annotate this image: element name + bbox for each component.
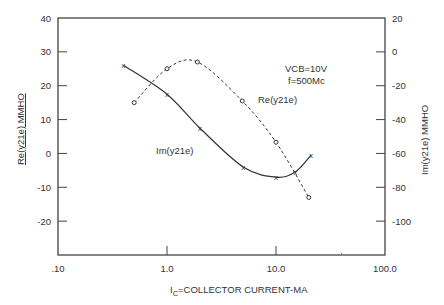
- x-marker: x: [165, 90, 169, 99]
- x-marker: x: [309, 151, 313, 160]
- left-y-tick-label: 0: [46, 148, 51, 159]
- right-y-tick-label: -20: [392, 80, 406, 91]
- condition-vcb: VCB=10V: [285, 63, 328, 74]
- chart: .101.010.0100.0 403020100-10-20 200-20-4…: [0, 0, 444, 305]
- right-y-tick-label: -40: [392, 114, 406, 125]
- circle-marker: [195, 60, 199, 64]
- x-marker: x: [198, 124, 202, 133]
- x-marker: x: [241, 163, 245, 172]
- left-y-tick-label: 30: [40, 46, 51, 57]
- left-y-tick-label: -10: [37, 182, 51, 193]
- data-series: xxxxxxx: [122, 60, 313, 200]
- right-y-axis-ticks: 200-20-40-60-80-100: [376, 13, 411, 227]
- x-tick-label: 100.0: [373, 263, 397, 274]
- right-y-tick-label: -60: [392, 148, 406, 159]
- x-marker: x: [122, 61, 126, 70]
- left-y-tick-label: 10: [40, 114, 51, 125]
- im-series-label: Im(y21e): [156, 145, 193, 156]
- x-tick-label: 1.0: [160, 263, 173, 274]
- x-tick-label: .10: [51, 263, 64, 274]
- im-series: xxxxxxx: [122, 61, 313, 182]
- condition-f: f=500Mc: [288, 75, 325, 86]
- left-y-tick-label: 20: [40, 80, 51, 91]
- left-y-axis-label: Re(y21e) MMHO: [15, 93, 26, 165]
- plot-frame: [58, 18, 385, 255]
- left-y-tick-label: 40: [40, 13, 51, 24]
- circle-marker: [240, 99, 244, 103]
- circle-marker: [274, 140, 278, 144]
- x-axis-ticks: .101.010.0100.0: [51, 246, 397, 274]
- x-axis-label: IC=COLLECTOR CURRENT-MA: [170, 284, 308, 298]
- x-marker: x: [293, 168, 297, 177]
- right-y-tick-label: 20: [392, 13, 403, 24]
- circle-marker: [165, 67, 169, 71]
- right-y-tick-label: 0: [392, 46, 397, 57]
- plot-border: [58, 18, 385, 255]
- re-series-label: Re(y21e): [258, 94, 297, 105]
- x-marker: x: [274, 173, 278, 182]
- circle-marker: [307, 195, 311, 199]
- left-y-axis-ticks: 403020100-10-20: [37, 13, 67, 227]
- x-tick-label: 10.0: [267, 263, 286, 274]
- right-y-tick-label: -100: [392, 216, 411, 227]
- circle-marker: [132, 101, 136, 105]
- right-y-axis-label: Im(y21e) MMHO: [419, 105, 430, 175]
- right-y-tick-label: -80: [392, 182, 406, 193]
- re-series: [132, 60, 311, 200]
- left-y-tick-label: -20: [37, 216, 51, 227]
